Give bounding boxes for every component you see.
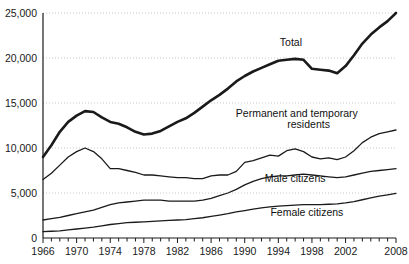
x-tick-label: 1970 <box>65 245 89 257</box>
y-tick-label: 5,000 <box>11 187 37 199</box>
x-axis-labels: 1966197019741978198219861990199419982002… <box>31 245 408 257</box>
x-tick-label: 1978 <box>132 245 156 257</box>
x-tick-label: 1990 <box>233 245 257 257</box>
chart-background <box>0 0 409 264</box>
x-tick-label: 2002 <box>334 245 358 257</box>
x-tick-label: 1994 <box>267 245 291 257</box>
y-tick-label: 0 <box>31 232 37 244</box>
chart-container: 05,00010,00015,00020,00025,000 196619701… <box>0 0 409 264</box>
line-chart: 05,00010,00015,00020,00025,000 196619701… <box>0 0 409 264</box>
x-tick-label: 1998 <box>300 245 324 257</box>
series-annotation-label: Total <box>280 36 302 48</box>
y-tick-label: 10,000 <box>5 142 37 154</box>
x-tick-label: 1974 <box>99 245 123 257</box>
series-annotation-label: Male citizens <box>265 172 326 184</box>
x-tick-label: 1986 <box>199 245 223 257</box>
y-tick-label: 20,000 <box>5 52 37 64</box>
x-tick-label: 1966 <box>31 245 55 257</box>
series-annotation-label: residents <box>287 118 330 130</box>
y-tick-label: 15,000 <box>5 97 37 109</box>
series-annotation-label: Female citizens <box>270 206 343 218</box>
x-tick-label: 2008 <box>384 245 408 257</box>
y-tick-label: 25,000 <box>5 7 37 19</box>
x-tick-label: 1982 <box>166 245 190 257</box>
